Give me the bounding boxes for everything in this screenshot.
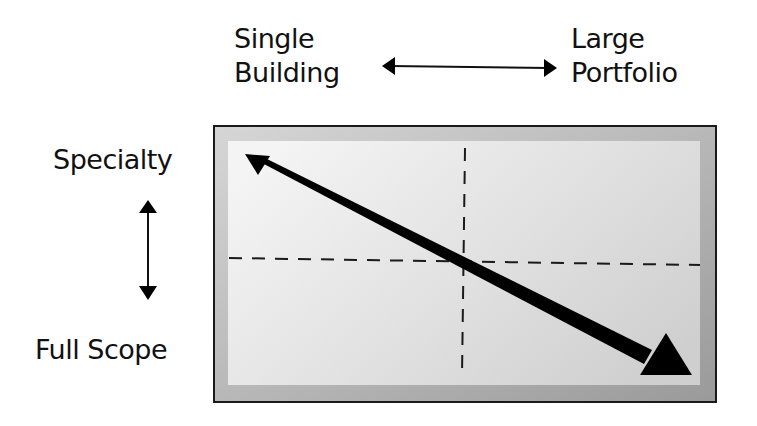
- quadrant-diagram: [0, 0, 757, 426]
- double-headed-horizontal-arrow-icon: [382, 57, 557, 77]
- double-headed-vertical-arrow-icon: [139, 200, 157, 300]
